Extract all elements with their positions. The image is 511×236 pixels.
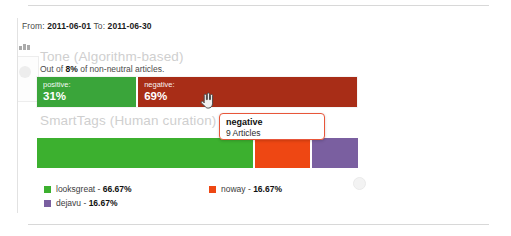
ghost-panel xyxy=(18,56,39,102)
legend-swatch-looksgreat xyxy=(44,186,51,193)
legend-swatch-noway xyxy=(209,186,216,193)
tone-subtitle-value: 8% xyxy=(66,64,78,74)
divider-bottom xyxy=(28,224,489,225)
tone-positive-label: positive: xyxy=(43,80,136,89)
smarttags-segment-dejavu[interactable] xyxy=(310,138,358,168)
legend-sep-0: - xyxy=(95,184,103,194)
tone-subtitle-suffix: of non-neutral articles. xyxy=(78,64,164,74)
legend-row-1: looksgreat - 66.67% noway - 16.67% xyxy=(44,184,364,198)
legend-item-looksgreat[interactable]: looksgreat - 66.67% xyxy=(44,184,132,194)
tooltip: negative 9 Articles xyxy=(219,113,325,140)
date-to-label: To: xyxy=(94,21,106,31)
tone-section-subtitle: Out of 8% of non-neutral articles. xyxy=(40,64,164,74)
analytics-panel: From: 2011-06-01 To: 2011-06-30 Tone (Al… xyxy=(0,0,511,236)
tone-subtitle-prefix: Out of xyxy=(40,64,66,74)
tone-section-title: Tone (Algorithm-based) xyxy=(40,49,184,64)
smarttags-legend: looksgreat - 66.67% noway - 16.67% dejav… xyxy=(44,184,364,212)
legend-item-noway[interactable]: noway - 16.67% xyxy=(209,184,282,194)
smarttags-segment-noway[interactable] xyxy=(253,138,310,168)
legend-value-dejavu: 16.67% xyxy=(89,198,118,208)
legend-value-noway: 16.67% xyxy=(253,184,282,194)
smarttags-stacked-bar xyxy=(37,138,358,168)
left-guide-line xyxy=(17,18,18,213)
legend-item-dejavu[interactable]: dejavu - 16.67% xyxy=(44,198,117,208)
tooltip-subtitle: 9 Articles xyxy=(226,128,324,139)
legend-value-looksgreat: 66.67% xyxy=(103,184,132,194)
date-range: From: 2011-06-01 To: 2011-06-30 xyxy=(22,21,152,31)
smarttags-segment-looksgreat[interactable] xyxy=(37,138,253,168)
date-from-label: From: xyxy=(22,21,45,31)
legend-label-noway: noway xyxy=(221,184,246,194)
legend-sep-1: - xyxy=(246,184,254,194)
bar-chart-icon xyxy=(19,44,32,50)
legend-sep-2: - xyxy=(81,198,89,208)
legend-swatch-dejavu xyxy=(44,200,51,207)
tone-segment-positive[interactable]: positive: 31% xyxy=(37,77,136,107)
date-from-value[interactable]: 2011-06-01 xyxy=(47,21,91,31)
date-to-value[interactable]: 2011-06-30 xyxy=(108,21,152,31)
divider-top xyxy=(28,5,489,6)
tone-negative-label: negative: xyxy=(144,80,357,89)
tone-segment-negative[interactable]: negative: 69% xyxy=(136,77,357,107)
tone-stacked-bar: positive: 31% negative: 69% xyxy=(37,77,357,107)
ghost-circle-icon xyxy=(19,66,31,78)
legend-label-looksgreat: looksgreat xyxy=(56,184,95,194)
smarttags-section-title: SmartTags (Human curation) xyxy=(40,113,216,128)
legend-label-dejavu: dejavu xyxy=(56,198,81,208)
tooltip-title: negative xyxy=(226,117,324,128)
tone-negative-value: 69% xyxy=(144,90,357,103)
tone-positive-value: 31% xyxy=(43,90,136,103)
legend-row-2: dejavu - 16.67% xyxy=(44,198,364,212)
